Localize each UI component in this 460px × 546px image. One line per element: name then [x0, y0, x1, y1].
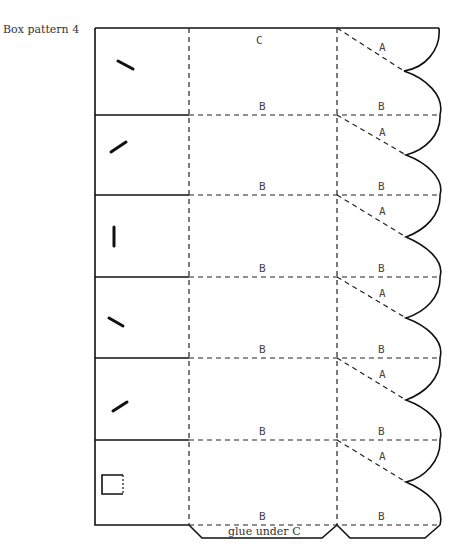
label-b: B: [259, 100, 266, 113]
label-b: B: [259, 343, 266, 356]
slash-down-mark-4: [109, 318, 123, 326]
label-a: A: [379, 205, 386, 218]
glue-tab: [189, 525, 440, 538]
label-b: B: [378, 425, 385, 438]
label-b: B: [378, 510, 385, 523]
label-c: C: [256, 34, 263, 47]
slash-up-mark-2: [111, 142, 126, 152]
label-b: B: [378, 262, 385, 275]
label-b: B: [259, 425, 266, 438]
fold-lines: [189, 28, 440, 525]
label-a: A: [379, 287, 386, 300]
square-mark-6: [102, 475, 123, 494]
label-a: A: [379, 450, 386, 463]
label-b: B: [378, 343, 385, 356]
slash-up-mark-5: [113, 402, 127, 411]
label-a: A: [379, 368, 386, 381]
label-b: B: [259, 180, 266, 193]
label-b: B: [378, 100, 385, 113]
label-a: A: [379, 126, 386, 139]
label-b: B: [378, 180, 385, 193]
label-b: B: [259, 510, 266, 523]
label-b: B: [259, 262, 266, 275]
box-pattern-diagram: C A A A A A A B B B B B B B B B B B B gl…: [0, 0, 460, 546]
glue-label: glue under C: [228, 525, 301, 538]
slash-down-mark-1: [118, 61, 133, 69]
cut-lines: [95, 28, 441, 538]
label-a: A: [379, 41, 386, 54]
